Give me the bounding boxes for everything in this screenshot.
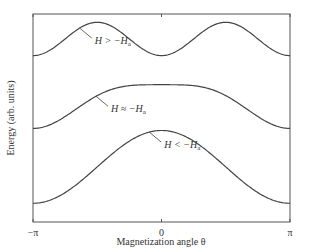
series-line-2 — [33, 85, 290, 129]
annotation-label: H ≈ −Ha — [110, 103, 147, 116]
plot-frame — [33, 14, 290, 222]
energy-chart: −π0π H > −HaH ≈ −HaH < −Ha Magnetization… — [0, 0, 322, 251]
annotation-label: H > −Ha — [94, 35, 132, 48]
annotation-leader — [80, 28, 92, 38]
series-line-3 — [33, 130, 290, 203]
x-tick-label: π — [287, 227, 292, 238]
x-tick-label: −π — [28, 227, 39, 238]
annotation-leader — [96, 96, 108, 106]
y-axis-label: Energy (arb. units) — [5, 80, 17, 155]
series-line-1 — [33, 22, 290, 55]
x-axis-label: Magnetization angle θ — [116, 236, 205, 247]
annotation-label: H < −Ha — [163, 139, 201, 152]
annotation-leader — [149, 132, 161, 142]
